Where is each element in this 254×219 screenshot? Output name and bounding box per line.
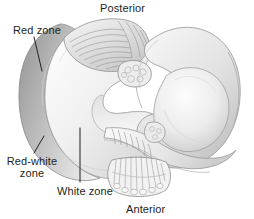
ligament-nodule bbox=[144, 122, 165, 142]
label-red-white-zone: Red-whitezone bbox=[3, 155, 61, 179]
label-posterior: Posterior bbox=[100, 2, 145, 14]
label-white-zone: White zone bbox=[57, 185, 113, 197]
anterior-root-attachment bbox=[108, 156, 171, 197]
label-anterior: Anterior bbox=[126, 203, 165, 215]
illustration-page: Posterior Anterior Red zone Red-whitezon… bbox=[0, 0, 254, 219]
medial-dome bbox=[154, 68, 229, 152]
label-red-white-zone-line1: Red-white bbox=[7, 155, 57, 167]
posterior-root-insertion bbox=[118, 60, 151, 87]
label-red-zone: Red zone bbox=[13, 24, 61, 36]
root-stalk bbox=[136, 86, 142, 108]
label-red-white-zone-line2: zone bbox=[20, 167, 44, 179]
